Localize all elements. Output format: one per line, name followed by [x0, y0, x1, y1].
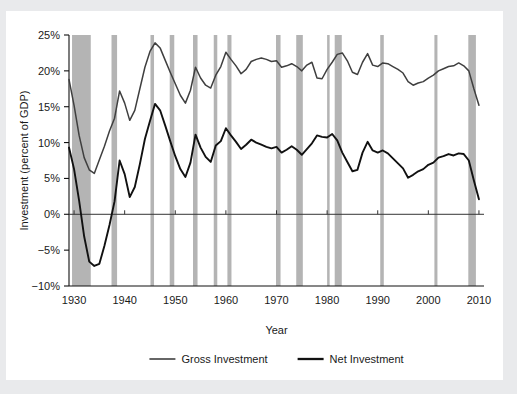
x-tick-label: 2010	[467, 294, 491, 306]
y-tick-label: 25%	[38, 29, 60, 41]
y-tick-label: 10%	[38, 137, 60, 149]
series-line-net-investment	[69, 104, 479, 266]
recession-band-8	[296, 35, 303, 286]
recession-band-0	[72, 35, 91, 286]
legend-label-0: Gross Investment	[181, 353, 267, 365]
chart-canvas: 25%20%15%10%5%0%−5%−10% 1930194019501960…	[6, 11, 503, 380]
x-tick-label: 1950	[163, 294, 187, 306]
y-tick-label: 20%	[38, 65, 60, 77]
x-tick-label: 1970	[264, 294, 288, 306]
y-tick-label: 15%	[38, 101, 60, 113]
chart-legend: Gross InvestmentNet Investment	[149, 353, 403, 365]
recession-band-group	[72, 35, 476, 286]
y-tick-label: −10%	[32, 280, 61, 292]
x-tick-label: 1980	[315, 294, 339, 306]
y-tick-label: 5%	[44, 172, 60, 184]
x-tick-label: 1930	[62, 294, 86, 306]
investment-chart: 25%20%15%10%5%0%−5%−10% 1930194019501960…	[6, 11, 503, 380]
series-line-gross-investment	[69, 43, 479, 174]
recession-band-1	[112, 35, 118, 286]
recession-band-9	[327, 35, 330, 286]
series-group	[69, 43, 479, 266]
zero-line	[69, 210, 484, 214]
x-tick-label: 1990	[365, 294, 389, 306]
y-tick-label: 0%	[44, 208, 60, 220]
recession-band-2	[150, 35, 154, 286]
x-axis-title: Year	[265, 324, 288, 336]
recession-band-11	[380, 35, 384, 286]
recession-band-6	[227, 35, 231, 286]
y-tick-group: 25%20%15%10%5%0%−5%−10%	[32, 29, 69, 292]
legend-label-1: Net Investment	[330, 353, 404, 365]
recession-band-7	[276, 35, 281, 286]
recession-band-10	[335, 35, 342, 286]
figure-card: 25%20%15%10%5%0%−5%−10% 1930194019501960…	[6, 11, 503, 380]
x-tick-label: 1960	[214, 294, 238, 306]
y-tick-label: −5%	[38, 244, 61, 256]
x-tick-label: 1940	[112, 294, 136, 306]
x-tick-group: 193019401950196019701980199020002010	[62, 294, 491, 306]
y-axis-title: Investment (percent of GDP)	[18, 91, 30, 231]
x-tick-label: 2000	[416, 294, 440, 306]
